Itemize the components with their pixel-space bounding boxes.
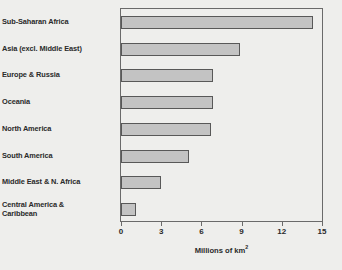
- x-tick-mark: [242, 222, 243, 226]
- x-tick-mark: [121, 222, 122, 226]
- x-tick-label: 6: [199, 227, 203, 236]
- category-label-line: Oceania: [2, 97, 108, 106]
- x-tick-label: 3: [159, 227, 163, 236]
- x-tick-mark: [161, 222, 162, 226]
- bar: [121, 96, 213, 109]
- category-axis-labels: Sub-Saharan AfricaAsia (excl. Middle Eas…: [0, 8, 116, 222]
- plot-area: [120, 8, 323, 222]
- category-label-line: Europe & Russia: [2, 70, 108, 79]
- bar: [121, 203, 136, 216]
- x-axis-title-superscript: 2: [245, 244, 248, 250]
- category-label-line: Asia (excl. Middle East): [2, 44, 108, 53]
- x-tick-label: 15: [318, 227, 327, 236]
- x-tick-label: 12: [277, 227, 286, 236]
- category-label-line: Caribbean: [2, 209, 108, 218]
- category-label: Europe & Russia: [2, 70, 108, 79]
- bar: [121, 16, 313, 29]
- bar: [121, 69, 213, 82]
- category-label-line: South America: [2, 151, 108, 160]
- bar: [121, 123, 211, 136]
- category-label-line: North America: [2, 124, 108, 133]
- x-tick-mark: [322, 222, 323, 226]
- category-label-line: Sub-Saharan Africa: [2, 17, 108, 26]
- category-label: North America: [2, 124, 108, 133]
- category-label-line: Middle East & N. Africa: [2, 177, 108, 186]
- category-label: Middle East & N. Africa: [2, 177, 108, 186]
- category-label-line: Central America &: [2, 200, 108, 209]
- category-label: Sub-Saharan Africa: [2, 17, 108, 26]
- x-tick-label: 0: [119, 227, 123, 236]
- x-axis-title: Millions of km2: [120, 246, 323, 255]
- x-tick-mark: [282, 222, 283, 226]
- category-label: Oceania: [2, 97, 108, 106]
- category-label: Central America &Caribbean: [2, 200, 108, 218]
- bar: [121, 43, 240, 56]
- category-label: South America: [2, 151, 108, 160]
- category-label: Asia (excl. Middle East): [2, 44, 108, 53]
- bars-layer: [121, 9, 322, 221]
- bar: [121, 150, 189, 163]
- x-tick-label: 9: [239, 227, 243, 236]
- bar-chart: Sub-Saharan AfricaAsia (excl. Middle Eas…: [0, 0, 342, 270]
- x-tick-mark: [201, 222, 202, 226]
- bar: [121, 176, 161, 189]
